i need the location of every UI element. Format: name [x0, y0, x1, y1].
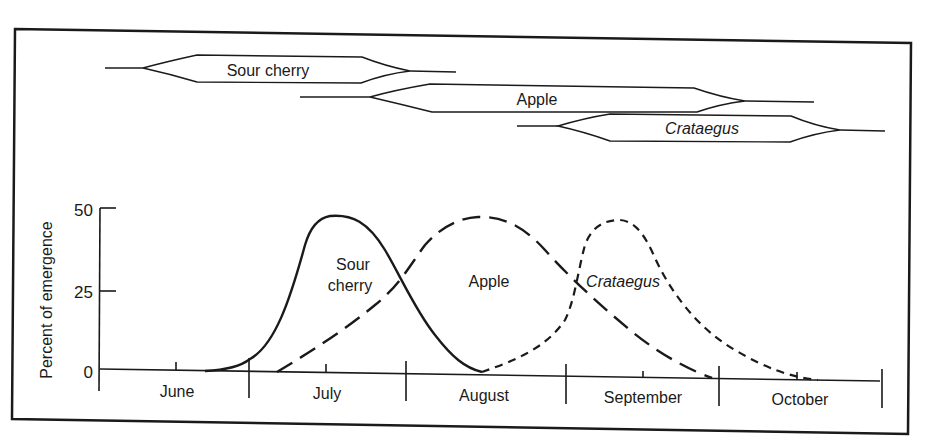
y-axis-label: Percent of emergence	[38, 221, 55, 379]
month-label-june: June	[160, 383, 195, 400]
curve-label-sour: Sour	[336, 256, 370, 273]
curve-label-crataegus: Crataegus	[586, 273, 660, 290]
curve-crataegus	[482, 220, 818, 380]
month-label-september: September	[604, 389, 683, 406]
y-tick-0: 0	[84, 363, 93, 382]
emergence-chart: Sour cherry Apple Crataegus 50 25 0 Perc…	[0, 0, 926, 446]
curve-label-apple: Apple	[469, 273, 510, 290]
curve-label-cherry: cherry	[328, 277, 372, 294]
chart-frame	[12, 29, 911, 434]
month-label-august: August	[459, 387, 509, 404]
y-tick-50: 50	[74, 201, 93, 220]
y-tick-25: 25	[74, 283, 93, 302]
month-label-october: October	[772, 391, 830, 408]
month-label-july: July	[313, 385, 341, 402]
y-axis	[99, 208, 116, 391]
bar-label-apple: Apple	[517, 91, 558, 108]
bar-label-crataegus: Crataegus	[665, 120, 739, 137]
bar-label-sour-cherry: Sour cherry	[227, 62, 310, 79]
